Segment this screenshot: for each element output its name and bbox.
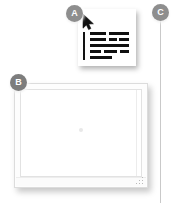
callout-badge-b[interactable]: B (10, 74, 27, 91)
application-window[interactable] (14, 83, 148, 188)
window-content-area[interactable] (20, 89, 142, 177)
window-status-strip (16, 177, 146, 186)
text-bar (120, 50, 129, 53)
select-all-icon-card[interactable] (78, 9, 136, 66)
callout-badge-c[interactable]: C (152, 4, 169, 21)
scroll-gutter-rule (136, 90, 137, 176)
callout-badge-a[interactable]: A (66, 5, 83, 22)
text-bar (109, 38, 117, 41)
text-bar (90, 32, 106, 35)
text-bar (90, 38, 106, 41)
resize-grip-icon[interactable] (135, 176, 144, 185)
text-bar (109, 32, 129, 35)
text-bar (90, 44, 129, 47)
selection-marquee-left-icon (83, 32, 85, 60)
text-bar (104, 50, 117, 53)
text-bar (90, 56, 112, 59)
callout-leader-line-c (160, 20, 161, 203)
annotated-figure: A B C (0, 0, 172, 203)
arrow-pointer-icon (82, 13, 96, 31)
text-bar (90, 50, 101, 53)
center-dot-icon (79, 128, 83, 132)
selection-marquee-top-icon (97, 14, 131, 16)
text-bar (119, 38, 129, 41)
